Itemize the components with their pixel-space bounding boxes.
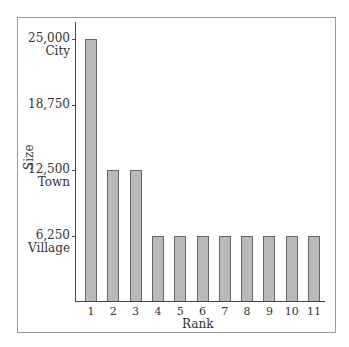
y-tick-label: 6,250Village xyxy=(28,229,70,255)
y-axis-line xyxy=(75,22,76,302)
bar-rank-11 xyxy=(308,236,320,302)
y-axis-title: Size xyxy=(22,145,36,170)
bar-rank-3 xyxy=(130,170,142,301)
x-tick-label: 8 xyxy=(237,305,257,318)
bar-rank-9 xyxy=(263,236,275,302)
x-tick-label: 3 xyxy=(126,305,146,318)
y-tick-mark xyxy=(72,39,76,40)
x-axis-title: Rank xyxy=(182,317,213,331)
bar-rank-5 xyxy=(174,236,186,302)
bar-rank-1 xyxy=(85,39,97,301)
bar-rank-4 xyxy=(152,236,164,302)
y-tick-label: 25,000City xyxy=(28,32,70,58)
bar-rank-10 xyxy=(286,236,298,302)
x-tick-label: 7 xyxy=(215,305,235,318)
bar-rank-2 xyxy=(107,170,119,301)
x-tick-label: 10 xyxy=(282,305,302,318)
x-tick-label: 9 xyxy=(259,305,279,318)
x-tick-label: 2 xyxy=(103,305,123,318)
y-tick-label: 18,750 xyxy=(28,98,70,111)
y-tick-mark xyxy=(72,105,76,106)
x-tick-label: 1 xyxy=(81,305,101,318)
bar-rank-7 xyxy=(219,236,231,302)
x-axis-line xyxy=(75,301,325,302)
bar-rank-6 xyxy=(197,236,209,302)
y-tick-mark xyxy=(72,236,76,237)
x-tick-label: 4 xyxy=(148,305,168,318)
x-tick-label: 11 xyxy=(304,305,324,318)
y-tick-mark xyxy=(72,170,76,171)
bar-rank-8 xyxy=(241,236,253,302)
